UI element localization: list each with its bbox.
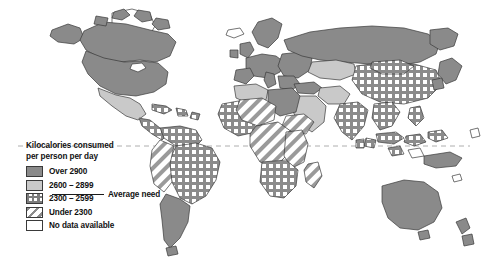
average-need-label: Average need [108, 190, 160, 199]
legend-swatch-over-2900 [26, 166, 43, 177]
legend-item-under-2300: Under 2300 [26, 206, 186, 219]
legend-label-over-2900: Over 2900 [49, 167, 87, 176]
average-need-rule [52, 194, 104, 195]
legend-swatch-under-2300 [26, 207, 43, 218]
legend-title: Kilocalories consumed per person per day [26, 141, 186, 162]
legend-swatch-no-data [26, 220, 43, 231]
average-need-annotation: Average need [52, 190, 160, 199]
legend-label-2600-2899: 2600 – 2899 [49, 181, 93, 190]
region-tasmania [418, 230, 430, 240]
region-sri-lanka [356, 139, 364, 148]
map-legend: Kilocalories consumed per person per day… [26, 141, 186, 233]
legend-label-no-data: No data available [49, 221, 114, 230]
legend-item-over-2900: Over 2900 [26, 165, 186, 178]
world-map-figure: .ln { stroke:#3a3a3a; stroke-width:0.7; … [0, 0, 488, 267]
legend-item-no-data: No data available [26, 219, 186, 232]
legend-label-under-2300: Under 2300 [49, 208, 92, 217]
region-patagonia-tip [166, 246, 178, 256]
legend-swatch-2300-2599 [26, 193, 43, 204]
legend-swatch-2600-2899 [26, 180, 43, 191]
